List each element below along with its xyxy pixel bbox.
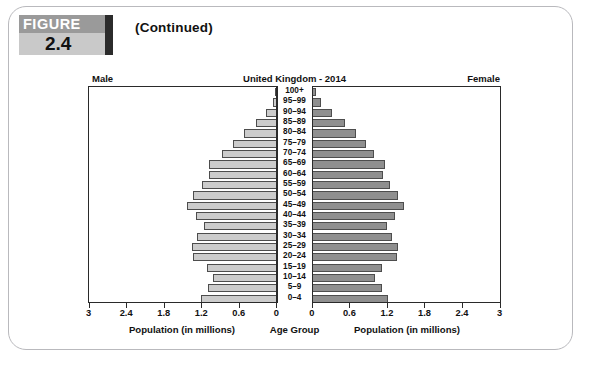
age-group-label: 10–14 [277, 272, 312, 282]
male-bar [202, 181, 277, 189]
male-bar-row [89, 252, 277, 262]
age-group-label: 50–54 [277, 189, 312, 199]
male-bar-row [89, 97, 277, 107]
male-bar-row [89, 263, 277, 273]
age-group-label: 60–64 [277, 169, 312, 179]
male-bar-row [89, 108, 277, 118]
female-bar [312, 222, 387, 230]
age-group-label: 100+ [277, 86, 312, 96]
age-group-label: 15–19 [277, 262, 312, 272]
female-bar-row [312, 263, 500, 273]
female-bar-row [312, 128, 500, 138]
male-bar [197, 233, 277, 241]
male-bar [233, 140, 277, 148]
male-bar [193, 191, 277, 199]
age-group-label: 45–49 [277, 200, 312, 210]
female-bar-row [312, 242, 500, 252]
male-bar-row [89, 232, 277, 242]
figure-label-word: FIGURE [23, 15, 105, 33]
male-bar-row [89, 180, 277, 190]
male-bar-row [89, 190, 277, 200]
male-bar [201, 295, 277, 303]
male-bar [207, 264, 277, 272]
female-bar [312, 160, 385, 168]
age-group-label: 90–94 [277, 107, 312, 117]
chart-title: United Kingdom - 2014 [0, 73, 589, 84]
x-tick-label-right: 1.2 [380, 308, 393, 318]
x-tick-label-right: 2.4 [456, 308, 469, 318]
male-bar-row [89, 201, 277, 211]
age-group-label: 30–34 [277, 231, 312, 241]
male-bar [222, 150, 277, 158]
female-bar [312, 295, 388, 303]
female-bar [312, 243, 398, 251]
male-bar-row [89, 139, 277, 149]
female-bar-row [312, 87, 500, 97]
female-bar-row [312, 211, 500, 221]
male-bar-row [89, 128, 277, 138]
male-bar-row [89, 149, 277, 159]
male-bar [209, 171, 277, 179]
female-side-label: Female [467, 73, 500, 84]
x-tick-label-left: 1.2 [195, 308, 208, 318]
female-bar [312, 253, 397, 261]
female-bar [312, 140, 366, 148]
age-group-label: 40–44 [277, 210, 312, 220]
age-group-label: 65–69 [277, 158, 312, 168]
age-group-label: 20–24 [277, 251, 312, 261]
male-bar [208, 284, 277, 292]
female-bar-row [312, 232, 500, 242]
x-tick-label-left: 0 [274, 308, 279, 318]
male-bar [193, 253, 277, 261]
age-group-label: 75–79 [277, 138, 312, 148]
female-bar-row [312, 97, 500, 107]
male-bar-row [89, 221, 277, 231]
female-bars-panel [312, 86, 501, 303]
figure-badge-accent-bar [105, 15, 113, 55]
female-bar [312, 171, 383, 179]
female-bar [312, 264, 382, 272]
female-bar-row [312, 294, 500, 303]
female-bar-row [312, 283, 500, 293]
male-bar-row [89, 273, 277, 283]
male-bar [204, 222, 277, 230]
female-bar [312, 150, 374, 158]
age-group-axis: 100+95–9990–9485–8980–8475–7970–7465–696… [277, 86, 312, 303]
x-tick-label-left: 3 [86, 308, 91, 318]
male-bar [244, 129, 277, 137]
female-bar-row [312, 252, 500, 262]
male-bar-row [89, 242, 277, 252]
figure-label-number: 2.4 [45, 32, 71, 55]
left-axis-caption: Population (in millions) [129, 324, 235, 335]
age-group-label: 25–29 [277, 241, 312, 251]
male-bar [213, 274, 277, 282]
female-bar [312, 119, 345, 127]
female-bar-row [312, 159, 500, 169]
female-bar-row [312, 139, 500, 149]
male-bar-row [89, 118, 277, 128]
female-bar-row [312, 118, 500, 128]
male-bar-row [89, 159, 277, 169]
age-group-label: 85–89 [277, 117, 312, 127]
age-group-label: 95–99 [277, 96, 312, 106]
x-tick-label-left: 1.8 [157, 308, 170, 318]
male-bar-row [89, 170, 277, 180]
female-bar [312, 98, 321, 106]
male-bar [187, 202, 277, 210]
female-bar-row [312, 108, 500, 118]
female-bar [312, 191, 398, 199]
female-bar-row [312, 149, 500, 159]
male-bar [192, 243, 277, 251]
figure-badge: FIGURE 2.4 [19, 15, 117, 55]
age-group-label: 35–39 [277, 220, 312, 230]
male-bar-row [89, 87, 277, 97]
x-tick-label-left: 0.6 [232, 308, 245, 318]
age-group-label: 55–59 [277, 179, 312, 189]
male-bar [256, 119, 277, 127]
right-axis-caption: Population (in millions) [354, 324, 460, 335]
female-bar-row [312, 170, 500, 180]
age-group-label: 70–74 [277, 148, 312, 158]
continued-label: (Continued) [135, 20, 213, 35]
x-tick-label-left: 2.4 [120, 308, 133, 318]
male-bar-row [89, 211, 277, 221]
